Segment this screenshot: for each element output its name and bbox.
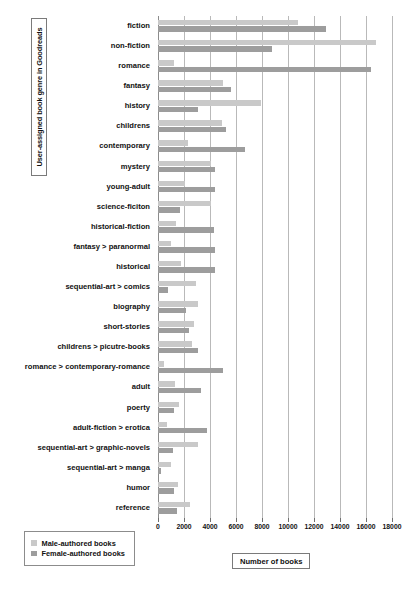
- bar-female: [158, 408, 174, 413]
- y-tick-label: poerty: [127, 398, 150, 419]
- y-axis-tick-labels: fictionnon-fictionromancefantasyhistoryc…: [0, 16, 154, 518]
- bar-female: [158, 67, 371, 72]
- y-tick-label: humor: [126, 478, 150, 499]
- bar-group: [158, 136, 392, 157]
- x-tick-label: 8000: [254, 523, 269, 530]
- bar-female: [158, 287, 168, 292]
- bar-group: [158, 357, 392, 378]
- bar-group: [158, 498, 392, 519]
- bar-male: [158, 482, 178, 487]
- bar-female: [158, 147, 245, 152]
- bar-male: [158, 140, 188, 145]
- bar-group: [158, 337, 392, 358]
- bar-male: [158, 20, 298, 25]
- y-tick-label: adult: [132, 377, 150, 398]
- y-tick-label: historical-fiction: [91, 217, 150, 238]
- x-tick-label: 12000: [305, 523, 324, 530]
- bar-group: [158, 297, 392, 318]
- bar-group: [158, 217, 392, 238]
- y-tick-label: fantasy > paranormal: [73, 237, 150, 258]
- bar-female: [158, 428, 207, 433]
- bar-male: [158, 422, 167, 427]
- bar-female: [158, 187, 215, 192]
- bar-female: [158, 308, 186, 313]
- bar-group: [158, 418, 392, 439]
- bar-male: [158, 381, 175, 386]
- bar-group: [158, 96, 392, 117]
- y-tick-label: reference: [116, 498, 150, 519]
- x-tick-label: 4000: [202, 523, 217, 530]
- gridline: [392, 16, 393, 518]
- y-tick-label: mystery: [121, 157, 150, 178]
- legend-label: Female-authored books: [42, 549, 125, 558]
- bar-female: [158, 227, 214, 232]
- bar-group: [158, 116, 392, 137]
- bar-male: [158, 462, 171, 467]
- bar-female: [158, 247, 215, 252]
- chart-figure: User-assigned book genre in Goodreads fi…: [0, 0, 406, 599]
- bar-group: [158, 16, 392, 37]
- x-tick-mark: [340, 518, 341, 522]
- bar-male: [158, 502, 190, 507]
- x-tick-label: 18000: [383, 523, 402, 530]
- x-tick-label: 2000: [176, 523, 191, 530]
- y-tick-label: contemporary: [99, 136, 150, 157]
- x-tick-mark: [184, 518, 185, 522]
- bar-female: [158, 508, 177, 513]
- y-tick-label: history: [125, 96, 150, 117]
- y-tick-label: adult-fiction > erotica: [73, 418, 150, 439]
- bar-male: [158, 221, 176, 226]
- bar-female: [158, 46, 272, 51]
- bar-male: [158, 341, 192, 346]
- y-tick-label: childrens: [116, 116, 150, 137]
- y-tick-label: sequential-art > manga: [67, 458, 150, 479]
- bar-male: [158, 301, 198, 306]
- bar-male: [158, 442, 198, 447]
- bar-male: [158, 321, 194, 326]
- x-axis-title: Number of books: [232, 553, 310, 569]
- bar-male: [158, 100, 261, 105]
- bar-female: [158, 348, 198, 353]
- y-tick-label: romance: [118, 56, 150, 77]
- bar-female: [158, 167, 215, 172]
- bar-male: [158, 261, 181, 266]
- y-tick-label: short-stories: [104, 317, 150, 338]
- bar-female: [158, 388, 201, 393]
- x-tick-mark: [158, 518, 159, 522]
- y-tick-label: non-fiction: [111, 36, 150, 57]
- bar-male: [158, 181, 185, 186]
- y-tick-label: fantasy: [123, 76, 150, 97]
- bar-male: [158, 402, 179, 407]
- x-tick-label: 16000: [357, 523, 376, 530]
- bar-male: [158, 201, 211, 206]
- y-tick-label: biography: [113, 297, 150, 318]
- bar-female: [158, 488, 174, 493]
- x-tick-label: 6000: [228, 523, 243, 530]
- x-tick-mark: [366, 518, 367, 522]
- x-tick-mark: [314, 518, 315, 522]
- y-tick-label: romance > contemporary-romance: [25, 357, 150, 378]
- bar-female: [158, 107, 198, 112]
- plot-area: [158, 16, 392, 518]
- bar-male: [158, 281, 196, 286]
- bar-group: [158, 398, 392, 419]
- x-axis: 0200040006000800010000120001400016000180…: [158, 518, 392, 536]
- bar-female: [158, 26, 326, 31]
- bar-group: [158, 458, 392, 479]
- bar-male: [158, 120, 222, 125]
- bar-group: [158, 76, 392, 97]
- bar-group: [158, 478, 392, 499]
- bar-group: [158, 317, 392, 338]
- bar-group: [158, 197, 392, 218]
- x-tick-mark: [392, 518, 393, 522]
- legend-swatch: [31, 540, 37, 546]
- legend-item: Female-authored books: [31, 549, 125, 558]
- bar-group: [158, 56, 392, 77]
- y-tick-label: sequential-art > comics: [65, 277, 150, 298]
- bar-group: [158, 377, 392, 398]
- bar-female: [158, 127, 226, 132]
- bar-group: [158, 36, 392, 57]
- bar-female: [158, 267, 215, 272]
- bar-group: [158, 177, 392, 198]
- bar-female: [158, 468, 161, 473]
